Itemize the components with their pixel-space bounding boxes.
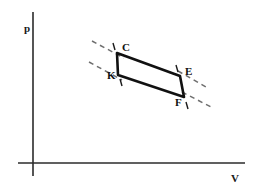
tick-mark-c bbox=[113, 43, 115, 50]
tick-mark-e bbox=[176, 65, 178, 72]
pressure-volume-diagram: C K E F p V bbox=[0, 0, 257, 194]
volume-axis-label: V bbox=[231, 172, 239, 184]
isotherm-guide-through-c bbox=[92, 41, 124, 58]
vertex-label-c: C bbox=[122, 41, 130, 53]
thermodynamic-cycle-path bbox=[117, 53, 184, 97]
diagram-canvas: C K E F p V bbox=[0, 0, 257, 194]
vertex-label-f: F bbox=[175, 96, 182, 108]
pressure-axis-label: p bbox=[24, 22, 30, 34]
vertex-label-e: E bbox=[185, 65, 192, 77]
tick-mark-f bbox=[186, 102, 188, 109]
vertex-label-k: K bbox=[107, 69, 116, 81]
